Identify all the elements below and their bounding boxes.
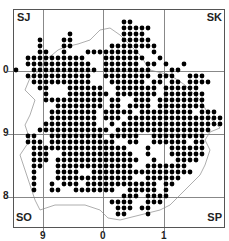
distribution-map: SJ SK SO SP 0 9 8 9 0 1	[0, 0, 229, 241]
square-label-sj: SJ	[17, 12, 30, 23]
square-label-so: SO	[16, 212, 32, 223]
map-canvas	[0, 0, 229, 241]
bottom-axis-label: 1	[161, 231, 167, 241]
left-axis-label: 0	[3, 65, 9, 75]
bottom-axis-label: 9	[40, 231, 46, 241]
square-label-sp: SP	[207, 212, 222, 223]
record-dots	[14, 20, 223, 217]
square-label-sk: SK	[207, 12, 222, 23]
left-axis-label: 9	[3, 128, 9, 138]
left-axis-label: 8	[3, 191, 9, 201]
bottom-axis-label: 0	[100, 231, 106, 241]
